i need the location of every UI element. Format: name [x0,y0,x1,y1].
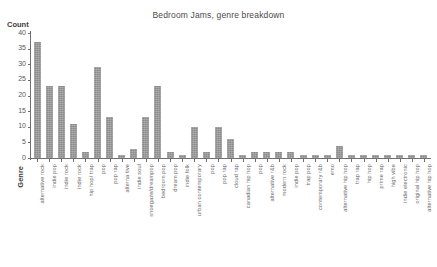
x-tick-label: indie folk [184,164,190,187]
x-tick-mark [134,158,135,162]
x-tick-mark [339,158,340,162]
x-tick-mark [351,158,352,162]
bar-slot [215,33,222,158]
x-axis-title: Genre [16,166,25,188]
x-tick-label: indie rock [76,164,82,189]
x-tick-mark [182,158,183,162]
x-tick-label: indie pop [293,164,299,188]
bar-slot [348,33,355,158]
bar-slot [420,33,427,158]
x-tick-label: canadian hip hop [245,164,251,208]
x-tick-label: pop [209,164,215,174]
x-tick-mark [122,158,123,162]
x-tick-label: hip hop/ trap [88,164,94,196]
y-tick-mark [28,158,31,159]
bar-slot [396,33,403,158]
bar[interactable] [94,67,101,158]
y-tick-label: 35 [18,44,26,51]
x-tick-mark [279,158,280,162]
x-tick-label: alternative hip hop [342,164,348,212]
bar[interactable] [70,124,77,158]
x-tick-mark [255,158,256,162]
bar[interactable] [46,86,53,158]
y-tick-label: 20 [18,91,26,98]
bar[interactable] [191,127,198,158]
x-tick-label: cloud rap [233,164,239,188]
x-tick-label: contemporary r&b [317,164,323,210]
x-tick-label: indie electronic [402,164,408,203]
bar-slot [251,33,258,158]
x-tick-mark [49,158,50,162]
x-tick-label: indie soul [136,164,142,189]
bar-slot [106,33,113,158]
x-tick-label: high vibe [390,164,396,187]
x-tick-mark [73,158,74,162]
x-tick-label: trap pop [305,164,311,185]
bar-slot [118,33,125,158]
bar[interactable] [154,86,161,158]
x-tick-label: prime rap [378,164,384,189]
x-tick-mark [376,158,377,162]
bar-slot [142,33,149,158]
y-tick-label: 10 [18,122,26,129]
x-tick-mark [61,158,62,162]
x-tick-label: original hip hop [414,164,420,204]
x-tick-label: bedroom pop [160,164,166,198]
y-tick-label: 0 [22,154,26,161]
bar-slot [384,33,391,158]
bar-slot [34,33,41,158]
x-tick-mark [110,158,111,162]
bar[interactable] [58,86,65,158]
bar[interactable] [130,149,137,158]
x-tick-mark [388,158,389,162]
x-tick-mark [170,158,171,162]
x-tick-label: pop rap [112,164,118,184]
bar-slot [227,33,234,158]
x-tick-mark [231,158,232,162]
x-tick-mark [315,158,316,162]
x-tick-label: indie pop [51,164,57,188]
x-tick-mark [412,158,413,162]
x-tick-label: pop [257,164,263,174]
bar[interactable] [142,117,149,158]
y-tick-label: 25 [18,75,26,82]
x-tick-mark [243,158,244,162]
x-tick-label: alternative hip hop [426,164,432,212]
bar[interactable] [34,42,41,158]
x-tick-label: alternative rock [39,164,45,204]
x-tick-mark [424,158,425,162]
x-tick-label: alterna tive [124,164,130,193]
bar-slot [372,33,379,158]
chart-root: Bedroom Jams, genre breakdown Count 0510… [0,0,437,267]
bar-slot [179,33,186,158]
x-tick-mark [194,158,195,162]
x-tick-mark [37,158,38,162]
x-tick-mark [303,158,304,162]
x-tick-mark [267,158,268,162]
y-tick-label: 5 [22,138,26,145]
bar-slot [360,33,367,158]
x-tick-mark [146,158,147,162]
y-tick-label: 15 [18,107,26,114]
x-tick-mark [218,158,219,162]
bar-slot [239,33,246,158]
bar-slot [94,33,101,158]
x-tick-label: hip hop [366,164,372,183]
x-tick-label: modern rock [281,164,287,196]
bar-slot [130,33,137,158]
bar-slot [312,33,319,158]
bar-slot [300,33,307,158]
x-tick-mark [327,158,328,162]
bar[interactable] [227,139,234,158]
bar[interactable] [336,146,343,159]
x-tick-mark [206,158,207,162]
x-tick-mark [98,158,99,162]
bar-slot [408,33,415,158]
x-tick-label: alternative r&b [269,164,275,202]
bar-slot [336,33,343,158]
y-tick-label: 40 [18,29,26,36]
bar-slot [70,33,77,158]
bar-slot [82,33,89,158]
bar[interactable] [106,117,113,158]
bar[interactable] [215,127,222,158]
